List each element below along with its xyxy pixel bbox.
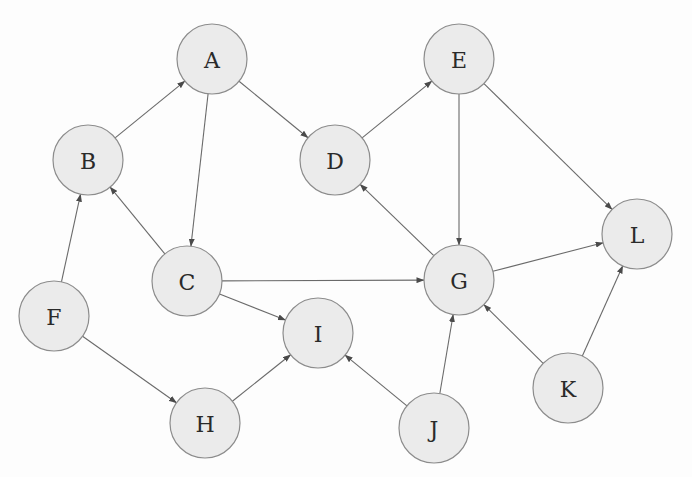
edge-e-to-l — [484, 84, 612, 210]
edge-f-to-h — [83, 336, 177, 403]
edge-j-to-g — [440, 315, 453, 394]
edge-d-to-e — [362, 81, 432, 138]
edge-g-to-l — [493, 243, 603, 271]
edge-j-to-i — [345, 355, 407, 406]
edge-c-to-g — [222, 280, 424, 281]
edge-k-to-l — [582, 266, 622, 356]
node-g: G — [424, 245, 494, 315]
node-i: I — [283, 298, 353, 368]
node-f: F — [19, 281, 89, 351]
node-label: H — [195, 412, 214, 437]
node-l: L — [602, 199, 672, 269]
edge-f-to-b — [61, 194, 80, 282]
node-label: E — [451, 48, 467, 73]
node-label: F — [46, 305, 61, 330]
node-label: C — [179, 270, 196, 295]
node-label: A — [203, 48, 221, 73]
node-e: E — [424, 24, 494, 94]
edge-h-to-i — [232, 355, 290, 401]
node-label: K — [560, 377, 577, 402]
nodes-layer: ABCDEFGHIJKL — [19, 24, 672, 463]
edge-a-to-d — [239, 81, 308, 138]
node-b: B — [53, 125, 123, 195]
graph-canvas: ABCDEFGHIJKL — [0, 0, 692, 477]
edge-a-to-c — [191, 94, 208, 246]
node-label: G — [450, 269, 468, 294]
node-h: H — [170, 388, 240, 458]
node-label: B — [80, 149, 96, 174]
edge-c-to-i — [220, 294, 286, 320]
node-label: L — [630, 223, 645, 248]
node-label: D — [326, 149, 344, 174]
edge-k-to-g — [484, 305, 543, 364]
node-k: K — [533, 353, 603, 423]
node-d: D — [300, 125, 370, 195]
edge-b-to-a — [115, 81, 185, 138]
node-a: A — [177, 24, 247, 94]
edge-c-to-b — [110, 187, 165, 254]
edge-g-to-d — [360, 184, 434, 255]
node-label: I — [314, 322, 323, 347]
node-label: J — [428, 417, 439, 442]
node-j: J — [399, 393, 469, 463]
node-c: C — [152, 246, 222, 316]
directed-graph: ABCDEFGHIJKL — [0, 0, 692, 477]
